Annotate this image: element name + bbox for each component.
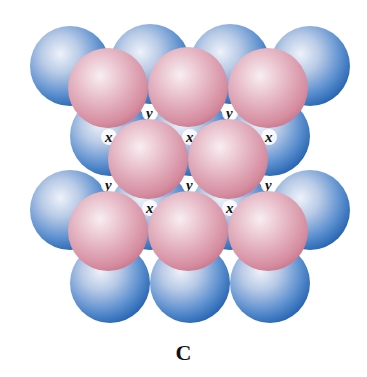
pink-sphere [228, 48, 308, 128]
hole-label-y: y [224, 105, 233, 121]
pink-sphere [228, 191, 308, 271]
hole-label-y: y [263, 177, 272, 193]
pink-sphere [188, 119, 268, 199]
close-packing-diagram: yyxxxyyyxx [0, 0, 367, 377]
hole-label-y: y [144, 105, 153, 121]
pink-sphere [148, 191, 228, 271]
pink-sphere [108, 119, 188, 199]
figure-caption: C [0, 340, 367, 366]
pink-sphere [68, 48, 148, 128]
pink-sphere [148, 47, 228, 127]
hole-label-x: x [264, 129, 273, 145]
hole-label-y: y [184, 177, 193, 193]
hole-label-y: y [103, 177, 112, 193]
pink-sphere [68, 191, 148, 271]
